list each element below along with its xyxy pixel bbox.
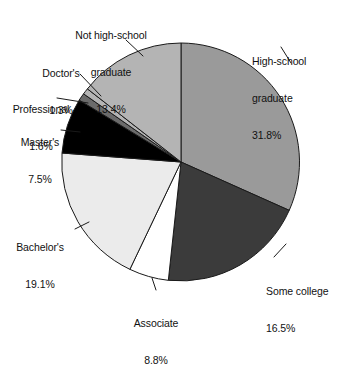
slice-label-some-college-line1: Some college bbox=[266, 285, 339, 297]
slice-label-high-school-graduate-line2: graduate bbox=[252, 92, 338, 104]
slice-value-high-school-graduate: 31.8% bbox=[252, 129, 338, 141]
leader-line-some-college bbox=[274, 244, 286, 257]
slice-label-masters: Master's 7.5% bbox=[3, 112, 77, 210]
slice-label-doctors-line1: Doctor's bbox=[22, 67, 100, 79]
slice-value-masters: 7.5% bbox=[3, 173, 77, 185]
slice-label-high-school-graduate: High-school graduate 31.8% bbox=[252, 31, 338, 165]
slice-label-masters-line1: Master's bbox=[3, 136, 77, 148]
slice-label-high-school-graduate-line1: High-school bbox=[252, 55, 338, 67]
slice-value-some-college: 16.5% bbox=[266, 322, 339, 334]
slice-label-associate-line1: Associate bbox=[114, 317, 198, 329]
slice-label-not-high-school-graduate-line1: Not high-school bbox=[56, 29, 166, 41]
leader-line-associate bbox=[152, 278, 156, 290]
slice-label-some-college: Some college 16.5% bbox=[266, 261, 339, 359]
slice-value-bachelors: 19.1% bbox=[5, 278, 75, 290]
slice-label-bachelors-line1: Bachelor's bbox=[5, 241, 75, 253]
slice-value-associate: 8.8% bbox=[114, 354, 198, 366]
slice-label-associate: Associate 8.8% bbox=[114, 293, 198, 368]
slice-label-bachelors: Bachelor's 19.1% bbox=[5, 217, 75, 315]
